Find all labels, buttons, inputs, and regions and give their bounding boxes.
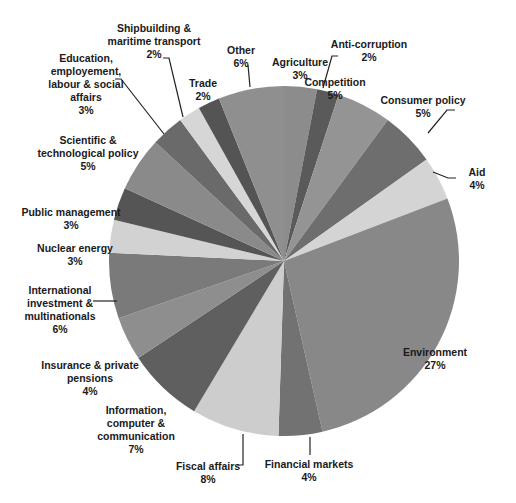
data-label: Trade 2% xyxy=(178,77,228,103)
data-label: Financial markets 4% xyxy=(254,458,364,484)
data-label: Nuclear energy 3% xyxy=(25,242,125,268)
data-label: Shipbuilding & maritime transport 2% xyxy=(94,22,214,61)
data-label: Consumer policy 5% xyxy=(368,94,478,120)
data-label: Education, employement, labour & social … xyxy=(26,52,146,117)
data-label: Scientific & technological policy 5% xyxy=(23,134,153,173)
data-label: Insurance & private pensions 4% xyxy=(30,359,150,398)
data-label: Fiscal affairs 8% xyxy=(158,460,258,486)
data-label: Anti-corruption 2% xyxy=(314,38,424,64)
data-label: Environment 27% xyxy=(385,346,485,372)
data-label: Competition 5% xyxy=(300,76,370,102)
data-label: International investment & multinational… xyxy=(10,284,110,336)
data-label: Information, computer & communication 7% xyxy=(81,404,191,456)
data-label: Aid 4% xyxy=(457,166,497,192)
pie-slices xyxy=(109,86,459,436)
data-label: Public management 3% xyxy=(11,206,131,232)
data-label: Other 6% xyxy=(216,44,266,70)
